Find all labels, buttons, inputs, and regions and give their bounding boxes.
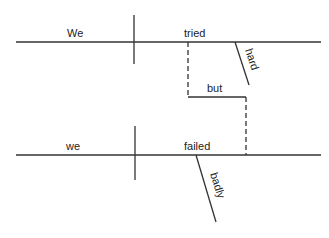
sentence-diagram: We tried hard but we failed badly	[0, 0, 329, 238]
clause2-modifier: badly	[208, 171, 228, 200]
clause2-subject: we	[65, 140, 80, 152]
clause1-subject: We	[67, 27, 83, 39]
clause2-verb: failed	[184, 140, 210, 152]
conjunction: but	[207, 82, 222, 94]
clause1-modifier: hard	[243, 47, 261, 72]
clause1-verb: tried	[184, 27, 205, 39]
